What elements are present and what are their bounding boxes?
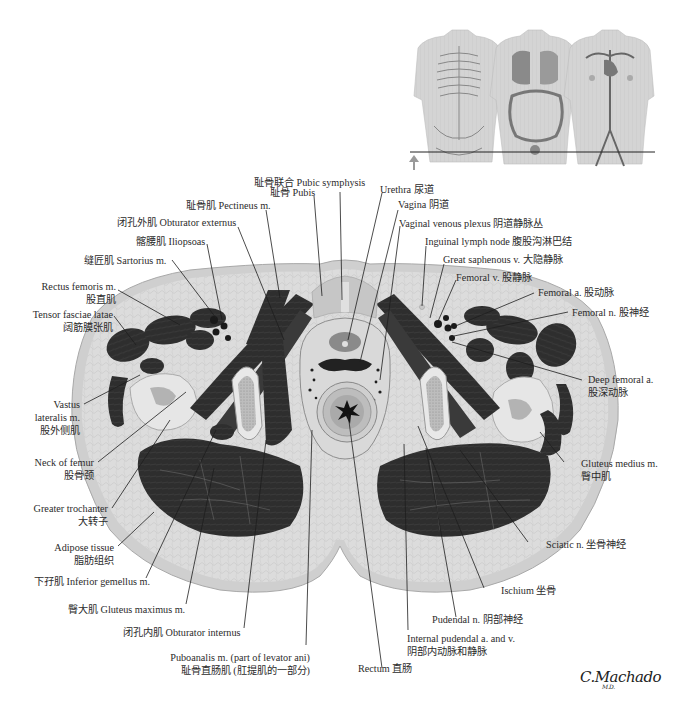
label-pubis: 耻骨 Pubis: [270, 186, 315, 199]
label-en: Greater trochanter: [34, 502, 108, 515]
pelvis-cross-section-figure: 耻骨联合 Pubic symphysis 耻骨 Pubis 耻骨肌 Pectin…: [0, 0, 690, 722]
label-zh: 坐骨神经: [586, 539, 626, 550]
label-gluteus-maximus: 臀大肌 Gluteus maximus m.: [68, 603, 185, 616]
inset-torsos: [409, 30, 655, 170]
label-en: lateralis m.: [35, 411, 80, 424]
label-tensor-fasciae-latae: Tensor fasciae latae 阔筋膜张肌: [33, 308, 113, 334]
label-zh: 闭孔外肌: [117, 217, 157, 228]
label-en: Great saphenous v.: [443, 254, 520, 265]
label-en: Tensor fasciae latae: [33, 308, 113, 321]
label-rectum: Rectum 直肠: [358, 662, 412, 675]
label-iliopsoas: 髂腰肌 Iliopsoas: [136, 235, 205, 248]
label-zh: 腹股沟淋巴结: [512, 236, 572, 247]
label-adipose-tissue: Adipose tissue 脂肪组织: [54, 541, 114, 567]
label-ischium: Ischium 坐骨: [501, 584, 556, 597]
label-neck-of-femur: Neck of femur 股骨颈: [35, 456, 94, 482]
label-zh: 股神经: [619, 307, 649, 318]
label-zh: 髂腰肌: [136, 236, 166, 247]
label-zh: 阴部内动脉和静脉: [407, 645, 515, 658]
label-en: Obturator internus: [166, 627, 241, 638]
label-sciatic-n: Sciatic n. 坐骨神经: [546, 538, 626, 551]
label-en: Rectum: [358, 663, 390, 674]
label-en: Rectus femoris m.: [42, 280, 116, 293]
label-en: Femoral a.: [538, 287, 582, 298]
label-zh: 阴道静脉丛: [493, 218, 543, 229]
label-vastus-lateralis: Vastus lateralis m. 股外侧肌: [35, 398, 80, 437]
label-deep-femoral-a: Deep femoral a. 股深动脉: [588, 373, 653, 399]
label-inferior-gemellus: 下孖肌 Inferior gemellus m.: [34, 575, 150, 588]
label-greater-trochanter: Greater trochanter 大转子: [34, 502, 108, 528]
label-zh: 股直肌: [42, 293, 116, 306]
label-puboanalis: Puboanalis m. (part of levator ani) 耻骨直肠…: [170, 651, 310, 677]
label-zh: 股外侧肌: [35, 424, 80, 437]
label-zh: 股动脉: [584, 287, 614, 298]
label-en: Vastus: [35, 398, 80, 411]
label-zh: 下孖肌: [34, 576, 64, 587]
label-vaginal-venous-plexus: Vaginal venous plexus 阴道静脉丛: [399, 217, 543, 230]
label-en: Gluteus medius m.: [581, 457, 658, 470]
label-en: Sartorius m.: [117, 255, 167, 266]
label-great-saphenous-v: Great saphenous v. 大隐静脉: [443, 253, 563, 266]
label-inguinal-lymph-node: Inguinal lymph node 腹股沟淋巴结: [425, 235, 572, 248]
right-femur: [492, 377, 554, 442]
label-zh: 尿道: [414, 184, 434, 195]
label-urethra: Urethra 尿道: [380, 183, 434, 196]
label-zh: 缝匠肌: [84, 255, 114, 266]
label-zh: 耻骨肌: [186, 200, 216, 211]
label-en: Deep femoral a.: [588, 373, 653, 386]
label-femoral-v: Femoral v. 股静脉: [456, 271, 532, 284]
label-en: Vaginal venous plexus: [399, 218, 491, 229]
label-en: Urethra: [380, 184, 411, 195]
label-zh: 阴道: [429, 199, 449, 210]
label-internal-pudendal: Internal pudendal a. and v. 阴部内动脉和静脉: [407, 632, 515, 658]
label-sartorius: 缝匠肌 Sartorius m.: [84, 254, 166, 267]
label-en: Vagina: [398, 199, 426, 210]
label-zh: 股深动脉: [588, 386, 653, 399]
label-zh: 大隐静脉: [523, 254, 563, 265]
torso-viscera-icon: [490, 30, 578, 164]
label-en: Neck of femur: [35, 456, 94, 469]
label-femoral-n: Femoral n. 股神经: [572, 306, 649, 319]
label-en: Ischium: [501, 585, 534, 596]
label-en: Sciatic n.: [546, 539, 584, 550]
label-en: Obturator externus: [160, 217, 237, 228]
label-en: Pudendal n.: [432, 614, 480, 625]
label-femoral-a: Femoral a. 股动脉: [538, 286, 614, 299]
label-en: Internal pudendal a. and v.: [407, 632, 515, 645]
label-zh: 股骨颈: [35, 469, 94, 482]
label-pectineus: 耻骨肌 Pectineus m.: [186, 199, 271, 212]
label-vagina: Vagina 阴道: [398, 198, 449, 211]
label-en: Pectineus m.: [219, 200, 271, 211]
label-zh: 臀大肌: [68, 604, 98, 615]
label-en: Inguinal lymph node: [425, 236, 510, 247]
label-gluteus-medius: Gluteus medius m. 臀中肌: [581, 457, 658, 483]
label-zh: 阔筋膜张肌: [33, 321, 113, 334]
label-zh: 大转子: [34, 515, 108, 528]
up-arrow-icon: [409, 155, 419, 170]
label-pudendal-n: Pudendal n. 阴部神经: [432, 613, 523, 626]
label-obturator-externus: 闭孔外肌 Obturator externus: [117, 216, 236, 229]
label-zh: 直肠: [392, 663, 412, 674]
label-en: Iliopsoas: [169, 236, 206, 247]
rectum: [317, 382, 377, 442]
label-obturator-internus: 闭孔内肌 Obturator internus: [123, 626, 241, 639]
torso-vascular-icon: [564, 30, 654, 166]
label-zh: 耻骨直肠肌 (肛提肌的一部分): [170, 664, 310, 677]
label-en: Femoral n.: [572, 307, 616, 318]
label-en: Puboanalis m. (part of levator ani): [170, 651, 310, 664]
label-zh: 闭孔内肌: [123, 627, 163, 638]
label-zh: 耻骨: [270, 187, 290, 198]
label-zh: 股静脉: [502, 272, 532, 283]
label-en: Inferior gemellus m.: [67, 576, 150, 587]
label-zh: 坐骨: [536, 585, 556, 596]
label-en: Femoral v.: [456, 272, 499, 283]
label-zh: 阴部神经: [483, 614, 523, 625]
label-en: Pubis: [293, 187, 316, 198]
label-zh: 脂肪组织: [54, 554, 114, 567]
label-rectus-femoris: Rectus femoris m. 股直肌: [42, 280, 116, 306]
signature-name: C.Machado: [580, 668, 661, 686]
label-en: Adipose tissue: [54, 541, 114, 554]
label-zh: 臀中肌: [581, 470, 658, 483]
artist-signature: C.Machado M.D.: [580, 668, 661, 690]
label-en: Gluteus maximus m.: [101, 604, 186, 615]
